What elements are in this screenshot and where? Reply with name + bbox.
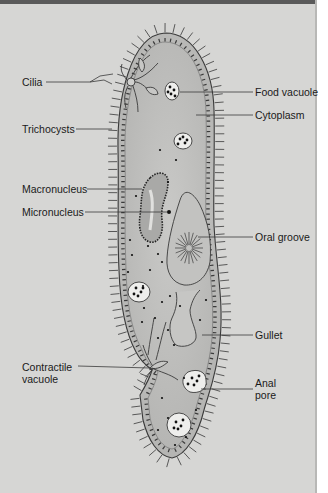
label-micronucleus: Micronucleus [22,206,84,218]
label-cytoplasm: Cytoplasm [255,109,305,121]
label-trichocysts: Trichocysts [22,123,75,135]
label-oral-groove: Oral groove [255,231,310,243]
label-contractile-vacuole-line2: vacuole [22,373,72,385]
label-gullet: Gullet [255,329,282,341]
micronucleus [167,210,171,214]
label-contractile-vacuole: Contractile vacuole [22,361,72,385]
label-anal-pore: Anal pore [255,377,276,401]
label-anal-pore-line2: pore [255,389,276,401]
label-contractile-vacuole-line1: Contractile [22,361,72,373]
label-macronucleus: Macronucleus [22,183,87,195]
label-anal-pore-line1: Anal [255,377,276,389]
paramecium-illustration [0,0,328,493]
label-food-vacuole: Food vacuole [255,86,318,98]
label-cilia: Cilia [22,76,42,88]
